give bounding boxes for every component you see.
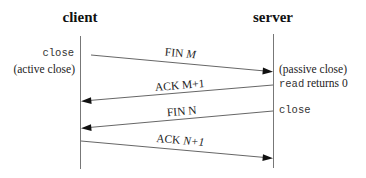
returns-zero-text: returns 0	[304, 77, 348, 89]
sequence-diagram-canvas: client server close (active close) (pass…	[0, 0, 366, 178]
fin-m-arrowhead-icon	[262, 68, 273, 75]
tcp-connection-termination-diagram: client server close (active close) (pass…	[0, 0, 366, 178]
message-ack-n-plus-1: ACK N+1	[81, 132, 273, 161]
fin-n-label: FIN N	[166, 104, 197, 119]
ack-m-label: ACK M+1	[154, 77, 205, 93]
message-ack-m-plus-1: ACK M+1	[81, 77, 273, 104]
client-active-close-note: (active close)	[13, 63, 75, 76]
ack-n-arrowhead-icon	[262, 154, 273, 161]
server-read-returns-note: read returns 0	[279, 77, 348, 90]
client-header: client	[63, 9, 98, 25]
message-fin-m: FIN M	[91, 46, 273, 75]
client-close-note: close	[42, 47, 74, 59]
fin-m-label: FIN M	[164, 46, 197, 61]
server-passive-close-note: (passive close)	[279, 63, 347, 76]
server-header: server	[253, 9, 293, 25]
ack-m-arrowhead-icon	[81, 97, 92, 104]
server-close-note: close	[279, 104, 311, 116]
message-fin-n: FIN N	[81, 104, 273, 131]
fin-n-arrowhead-icon	[81, 124, 92, 131]
ack-n-label: ACK N+1	[156, 132, 205, 148]
read-call-text: read	[279, 78, 304, 90]
